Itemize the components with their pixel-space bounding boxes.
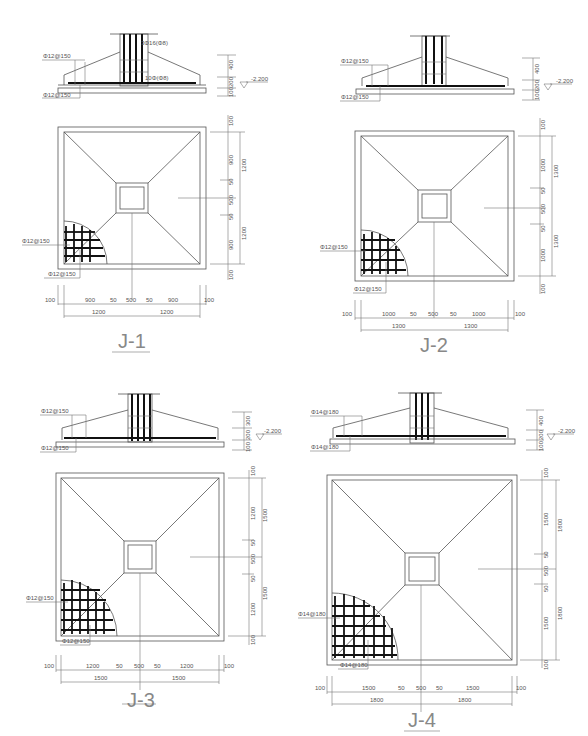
- svg-text:1200: 1200: [250, 506, 256, 520]
- svg-text:1200: 1200: [180, 663, 194, 669]
- svg-text:100: 100: [228, 115, 234, 126]
- svg-text:100: 100: [45, 297, 56, 303]
- footing-drawing-sheet: Φ12@150 Φ12@150 3Φ16(Φ8) 10Φ(Φ8) 400 200…: [0, 0, 588, 736]
- svg-text:1200: 1200: [241, 226, 247, 240]
- footing-title: J-4: [408, 709, 436, 731]
- svg-text:200: 200: [534, 79, 540, 90]
- svg-text:1000: 1000: [472, 311, 486, 317]
- svg-text:100: 100: [204, 297, 215, 303]
- svg-text:-2.200: -2.200: [558, 428, 576, 434]
- svg-text:1800: 1800: [557, 606, 563, 620]
- svg-text:1300: 1300: [553, 234, 559, 248]
- svg-text:500: 500: [543, 565, 549, 576]
- svg-text:50: 50: [436, 685, 443, 691]
- svg-text:1500: 1500: [466, 685, 480, 691]
- stirrup-label: 10Φ(Φ8): [145, 75, 169, 81]
- svg-text:500: 500: [250, 553, 256, 564]
- plan-view: Φ12@150 Φ12@150 100 1000 50 500 50 1000 …: [320, 118, 559, 332]
- footing-j3: Φ12@150 Φ12@150 300 200 100 -2.200: [26, 394, 282, 711]
- svg-text:1300: 1300: [392, 323, 406, 329]
- svg-text:900: 900: [168, 297, 179, 303]
- svg-text:50: 50: [450, 311, 457, 317]
- svg-text:500: 500: [428, 311, 439, 317]
- svg-text:500: 500: [540, 203, 546, 214]
- rebar-grid: [361, 232, 406, 274]
- svg-text:100: 100: [543, 659, 549, 670]
- svg-text:Φ12@150: Φ12@150: [341, 94, 369, 100]
- svg-text:100: 100: [228, 86, 234, 97]
- svg-text:200: 200: [245, 429, 251, 440]
- section-view: Φ14@180 Φ14@180 400 200 100 -2.200: [310, 393, 576, 451]
- footing-j2: Φ12@150 Φ12@150 400 200 100 -2.200: [320, 36, 574, 356]
- svg-text:50: 50: [116, 663, 123, 669]
- plan-view: Φ14@180 Φ14@180 100 1500 50 500 50 1500 …: [298, 467, 563, 712]
- svg-text:1200: 1200: [92, 309, 106, 315]
- plan-view: Φ12@150 Φ12@150 100 900 50 500 50 900 10…: [22, 115, 247, 318]
- svg-text:-2.200: -2.200: [264, 428, 282, 434]
- svg-text:1800: 1800: [458, 697, 472, 703]
- svg-text:50: 50: [540, 225, 546, 232]
- footing-title: J-2: [420, 334, 448, 356]
- column-rebar-label: 3Φ16(Φ8): [141, 40, 168, 46]
- svg-text:50: 50: [228, 213, 234, 220]
- svg-text:50: 50: [540, 187, 546, 194]
- svg-text:200: 200: [538, 429, 544, 440]
- svg-text:300: 300: [245, 415, 251, 426]
- svg-text:Φ14@180: Φ14@180: [311, 409, 339, 415]
- svg-text:50: 50: [146, 297, 153, 303]
- svg-text:1500: 1500: [262, 508, 268, 522]
- footing-title: J-1: [118, 330, 146, 352]
- svg-text:100: 100: [245, 441, 251, 452]
- svg-text:100: 100: [228, 269, 234, 280]
- svg-text:1300: 1300: [464, 323, 478, 329]
- svg-text:100: 100: [534, 89, 540, 100]
- svg-text:500: 500: [134, 663, 145, 669]
- svg-text:100: 100: [250, 634, 256, 645]
- svg-text:1000: 1000: [382, 311, 396, 317]
- svg-text:50: 50: [110, 297, 117, 303]
- svg-text:50: 50: [543, 585, 549, 592]
- svg-text:100: 100: [515, 311, 526, 317]
- footing-title: J-3: [127, 689, 155, 711]
- svg-text:1500: 1500: [362, 685, 376, 691]
- svg-text:100: 100: [538, 440, 544, 451]
- svg-text:200: 200: [228, 76, 234, 87]
- svg-text:Φ12@150: Φ12@150: [41, 445, 69, 451]
- svg-text:500: 500: [228, 194, 234, 205]
- svg-text:1500: 1500: [262, 586, 268, 600]
- svg-text:Φ12@150: Φ12@150: [341, 58, 369, 64]
- svg-text:Φ12@150: Φ12@150: [354, 286, 382, 292]
- svg-text:500: 500: [416, 685, 427, 691]
- svg-text:Φ12@150: Φ12@150: [62, 638, 90, 644]
- top-rebar-label: Φ12@150: [43, 53, 71, 59]
- svg-text:Φ14@180: Φ14@180: [311, 444, 339, 450]
- svg-text:50: 50: [410, 311, 417, 317]
- svg-text:100: 100: [540, 283, 546, 294]
- svg-text:900: 900: [85, 297, 96, 303]
- svg-text:1000: 1000: [540, 158, 546, 172]
- footing-j4: Φ14@180 Φ14@180 400 200 100 -2.200: [298, 393, 576, 731]
- svg-text:100: 100: [315, 685, 326, 691]
- svg-text:1000: 1000: [540, 248, 546, 262]
- svg-text:900: 900: [228, 239, 234, 250]
- svg-text:1800: 1800: [370, 697, 384, 703]
- svg-text:100: 100: [44, 663, 55, 669]
- svg-text:1500: 1500: [94, 675, 108, 681]
- svg-text:1200: 1200: [241, 158, 247, 172]
- svg-text:Φ14@180: Φ14@180: [298, 611, 326, 617]
- svg-text:50: 50: [398, 685, 405, 691]
- bottom-rebar-label: Φ12@150: [43, 92, 71, 98]
- svg-text:400: 400: [534, 63, 540, 74]
- svg-text:1200: 1200: [250, 602, 256, 616]
- footing-j1: Φ12@150 Φ12@150 3Φ16(Φ8) 10Φ(Φ8) 400 200…: [22, 34, 269, 352]
- section-view: Φ12@150 Φ12@150 400 200 100 -2.200: [340, 36, 574, 101]
- svg-text:100: 100: [342, 311, 353, 317]
- svg-text:Φ14@180: Φ14@180: [340, 662, 368, 668]
- svg-text:500: 500: [126, 297, 137, 303]
- svg-text:Φ12@150: Φ12@150: [48, 271, 76, 277]
- svg-text:100: 100: [516, 685, 527, 691]
- svg-text:Φ12@150: Φ12@150: [22, 238, 50, 244]
- svg-text:50: 50: [154, 663, 161, 669]
- svg-text:100: 100: [540, 119, 546, 130]
- svg-text:400: 400: [538, 415, 544, 426]
